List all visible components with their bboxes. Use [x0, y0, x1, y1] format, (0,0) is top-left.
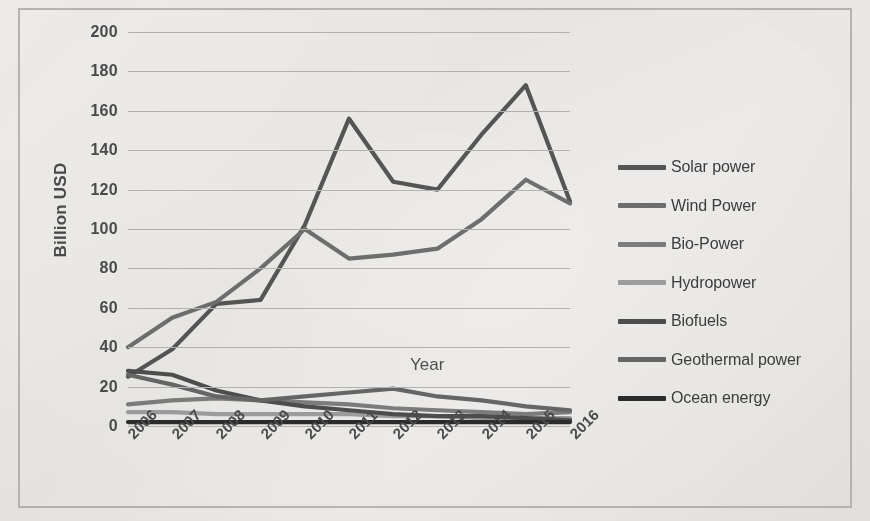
legend-item-label: Solar power [671, 158, 755, 176]
y-axis-tick-label: 80 [100, 259, 118, 277]
gridline [128, 111, 570, 112]
legend-color-swatch [618, 242, 666, 247]
y-axis-tick-label: 20 [100, 378, 118, 396]
legend-item[interactable]: Hydropower [618, 264, 858, 303]
gridline [128, 387, 570, 388]
legend-item-label: Bio-Power [671, 235, 744, 253]
y-axis-tick-label: 60 [100, 299, 118, 317]
series-line [128, 85, 570, 377]
legend-item-label: Hydropower [671, 274, 756, 292]
y-axis-tick-label: 200 [90, 23, 118, 41]
chart-container: Billion USD 200180160140120100806040200 … [0, 0, 870, 521]
legend-color-swatch [618, 357, 666, 362]
gridline [128, 308, 570, 309]
gridline [128, 229, 570, 230]
legend-item-label: Wind Power [671, 197, 756, 215]
x-axis-tick-labels: 2006200720082009201020112012201320142015… [128, 430, 570, 510]
y-axis-tick-label: 180 [90, 62, 118, 80]
y-axis-tick-label: 160 [90, 102, 118, 120]
gridline [128, 32, 570, 33]
series-line [128, 180, 570, 347]
legend-item[interactable]: Geothermal power [618, 341, 858, 380]
x-axis-title: Year [410, 355, 444, 375]
chart-legend: Solar powerWind PowerBio-PowerHydropower… [618, 148, 858, 418]
gridline [128, 71, 570, 72]
legend-item-label: Ocean energy [671, 389, 770, 407]
legend-color-swatch [618, 319, 666, 324]
legend-color-swatch [618, 280, 666, 285]
legend-item[interactable]: Wind Power [618, 187, 858, 226]
legend-item[interactable]: Ocean energy [618, 379, 858, 418]
y-axis-tick-label: 40 [100, 338, 118, 356]
gridline [128, 190, 570, 191]
y-axis-tick-label: 140 [90, 141, 118, 159]
legend-color-swatch [618, 203, 666, 208]
y-axis-tick-label: 0 [109, 417, 118, 435]
y-axis-tick-labels: 200180160140120100806040200 [62, 32, 118, 428]
legend-color-swatch [618, 396, 666, 401]
y-axis-tick-label: 100 [90, 220, 118, 238]
legend-item-label: Biofuels [671, 312, 727, 330]
y-axis-tick-label: 120 [90, 181, 118, 199]
gridline [128, 347, 570, 348]
gridline [128, 150, 570, 151]
legend-item[interactable]: Bio-Power [618, 225, 858, 264]
legend-item[interactable]: Biofuels [618, 302, 858, 341]
plot-area [128, 32, 570, 426]
legend-color-swatch [618, 165, 666, 170]
legend-item-label: Geothermal power [671, 351, 801, 369]
legend-item[interactable]: Solar power [618, 148, 858, 187]
gridline [128, 268, 570, 269]
